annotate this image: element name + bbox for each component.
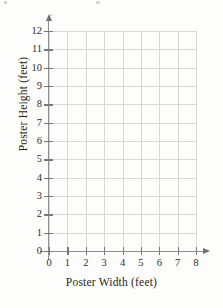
y-axis-tick-label: 3 [20, 191, 42, 202]
y-axis-tick [44, 233, 53, 234]
y-axis-tick [44, 196, 53, 197]
y-axis-line [48, 20, 49, 260]
y-axis-tick [44, 68, 53, 69]
x-axis-tick [49, 247, 50, 255]
x-axis-tick-label: 2 [76, 258, 96, 269]
x-axis-tick-label: 5 [131, 258, 151, 269]
y-axis-tick-label: 0 [20, 246, 42, 257]
gridline-horizontal [49, 159, 196, 160]
x-axis-tick [67, 247, 68, 255]
plot-area [49, 31, 196, 251]
y-axis-tick [44, 49, 53, 50]
gridline-horizontal [49, 233, 196, 234]
y-axis-tick-label: 1 [20, 228, 42, 239]
gridline-horizontal [49, 86, 196, 87]
gridline-horizontal [49, 31, 196, 32]
x-axis-tick [123, 247, 124, 255]
y-axis-tick [44, 159, 53, 160]
x-axis-tick [196, 247, 197, 255]
x-axis-tick-label: 1 [57, 258, 77, 269]
gridline-vertical [196, 31, 197, 251]
x-axis-tick-label: 7 [168, 258, 188, 269]
x-axis-tick [141, 247, 142, 255]
y-axis-arrow-icon [46, 14, 52, 21]
y-axis-tick [44, 214, 53, 215]
y-axis-tick-label: 2 [20, 209, 42, 220]
x-axis-title: Poster Width (feet) [0, 276, 223, 288]
x-axis-arrow-icon [203, 248, 210, 254]
scanned-page: 0123456789101112 012345678 Poster Height… [0, 0, 223, 308]
x-axis-tick-label: 0 [39, 258, 59, 269]
x-axis-tick [178, 247, 179, 255]
y-axis-title: Poster Height (feet) [17, 29, 29, 179]
gridline-horizontal [49, 178, 196, 179]
y-axis-tick [44, 86, 53, 87]
coordinate-grid-figure: 0123456789101112 012345678 Poster Height… [0, 0, 223, 308]
gridline-horizontal [49, 141, 196, 142]
gridline-horizontal [49, 104, 196, 105]
y-axis-tick [44, 123, 53, 124]
gridline-horizontal [49, 68, 196, 69]
x-axis-tick-label: 8 [186, 258, 206, 269]
gridline-horizontal [49, 123, 196, 124]
x-axis-tick [159, 247, 160, 255]
x-axis-tick-label: 3 [94, 258, 114, 269]
y-axis-tick [44, 104, 53, 105]
gridline-horizontal [49, 196, 196, 197]
x-axis-tick-label: 6 [149, 258, 169, 269]
gridline-horizontal [49, 49, 196, 50]
y-axis-tick [44, 31, 53, 32]
gridline-horizontal [49, 214, 196, 215]
y-axis-tick [44, 141, 53, 142]
x-axis-tick-label: 4 [113, 258, 133, 269]
x-axis-line [40, 251, 208, 252]
x-axis-tick [86, 247, 87, 255]
x-axis-tick [104, 247, 105, 255]
y-axis-tick [44, 178, 53, 179]
